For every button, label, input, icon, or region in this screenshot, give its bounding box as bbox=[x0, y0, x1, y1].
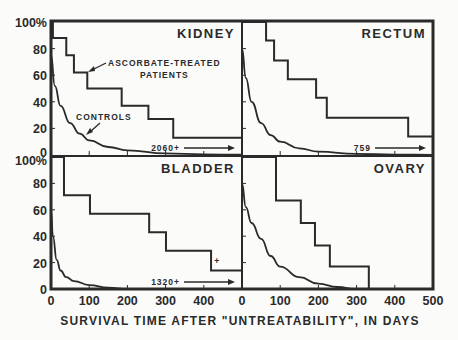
x-axis-title: SURVIVAL TIME AFTER "UNTREATABILITY", IN… bbox=[60, 314, 419, 328]
y-tick-label: 100% bbox=[15, 16, 47, 30]
x-tick-label: 100 bbox=[270, 294, 291, 308]
x-tick-label: 400 bbox=[193, 294, 214, 308]
x-tick-label: 300 bbox=[346, 294, 367, 308]
x-tick-label: 500 bbox=[423, 294, 444, 308]
y-tick-label: 0 bbox=[40, 283, 47, 297]
y-tick-label: 40 bbox=[33, 230, 47, 244]
x-tick-label: 0 bbox=[48, 294, 55, 308]
controls-annotation-label: CONTROLS bbox=[76, 112, 132, 122]
bladder-tail-arrow-head-icon bbox=[228, 279, 235, 285]
y-tick-label: 20 bbox=[33, 257, 47, 271]
chart-canvas: KIDNEY2060+RECTUM759BLADDER1320++OVARY02… bbox=[0, 0, 458, 340]
bladder-censor-mark: + bbox=[214, 256, 220, 266]
x-tick-label: 200 bbox=[117, 294, 138, 308]
kidney-tail-arrow-head-icon bbox=[228, 145, 235, 151]
ovary-panel-title: OVARY bbox=[374, 161, 426, 176]
y-tick-label: 40 bbox=[33, 96, 47, 110]
ovary-treated-step-line bbox=[242, 157, 369, 289]
y-tick-label: 80 bbox=[33, 43, 47, 57]
treated-pointer-arrow-icon bbox=[88, 66, 95, 72]
y-tick-label: 80 bbox=[33, 177, 47, 191]
x-tick-label: 400 bbox=[384, 294, 405, 308]
x-tick-label: 200 bbox=[308, 294, 329, 308]
rectum-controls-curve bbox=[242, 49, 433, 155]
treated-annotation-label: ASCORBATE-TREATED bbox=[108, 58, 221, 68]
x-tick-label: 300 bbox=[155, 294, 176, 308]
treated-annotation-label-2: PATIENTS bbox=[140, 70, 189, 80]
x-tick-label: 0 bbox=[239, 294, 246, 308]
bladder-panel-title: BLADDER bbox=[161, 161, 235, 176]
rectum-tail-arrow-head-icon bbox=[419, 145, 426, 151]
y-tick-label: 60 bbox=[33, 69, 47, 83]
rectum-panel-title: RECTUM bbox=[361, 26, 426, 41]
kidney-panel-title: KIDNEY bbox=[177, 26, 235, 41]
y-tick-label: 60 bbox=[33, 204, 47, 218]
y-tick-label: 20 bbox=[33, 122, 47, 136]
ovary-controls-curve bbox=[242, 183, 357, 289]
y-tick-label: 100% bbox=[15, 154, 47, 168]
survival-chart: KIDNEY2060+RECTUM759BLADDER1320++OVARY02… bbox=[0, 0, 458, 340]
x-tick-label: 100 bbox=[79, 294, 100, 308]
bladder-controls-curve bbox=[51, 210, 127, 289]
controls-pointer-arrow-icon bbox=[86, 128, 93, 135]
